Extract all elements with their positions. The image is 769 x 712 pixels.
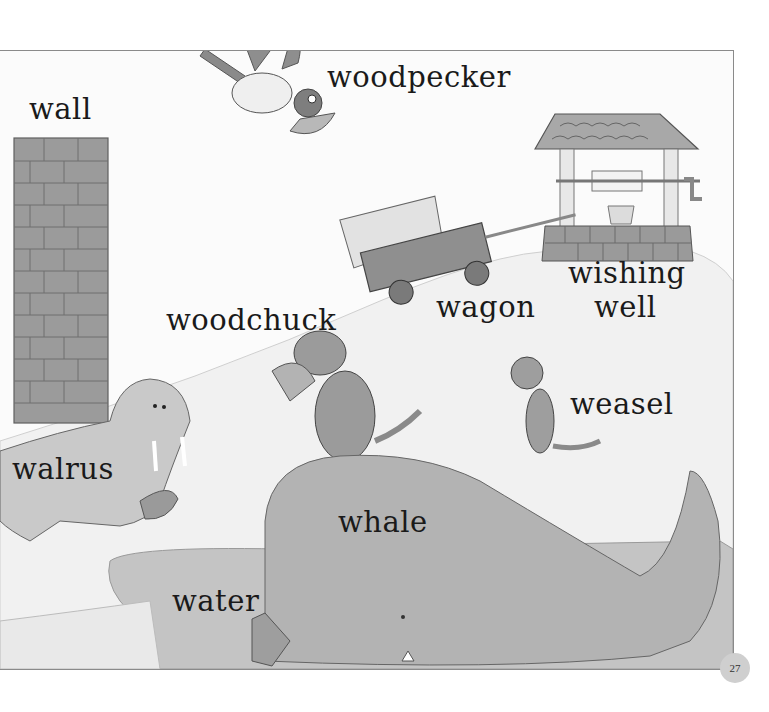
wishing-well-art	[535, 114, 702, 261]
label-wall: wall	[29, 94, 92, 124]
illustration-frame	[0, 50, 734, 670]
label-water: water	[172, 586, 259, 616]
label-whale: whale	[338, 507, 428, 537]
label-woodpecker: woodpecker	[327, 62, 511, 92]
label-well: well	[594, 292, 657, 322]
label-wishing: wishing	[568, 258, 686, 288]
label-walrus: walrus	[12, 454, 114, 484]
woodpecker-art	[200, 51, 335, 134]
label-wagon: wagon	[436, 292, 535, 322]
label-woodchuck: woodchuck	[166, 305, 336, 335]
scene-illustration	[0, 51, 733, 669]
page-number: 27	[730, 662, 741, 674]
brick-wall-art	[14, 138, 108, 423]
page-number-badge: 27	[720, 653, 750, 683]
label-weasel: weasel	[570, 389, 674, 419]
